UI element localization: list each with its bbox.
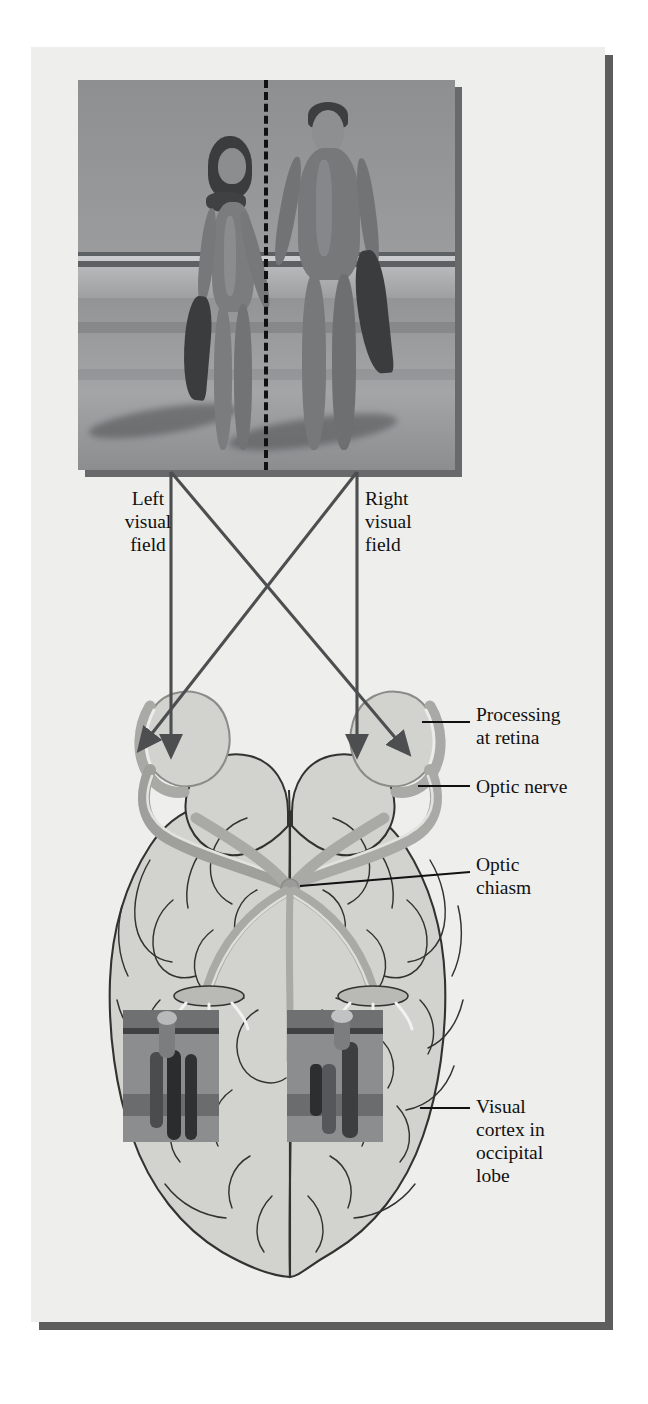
stimulus-photograph [78,80,455,470]
woman-left-leg [214,304,232,450]
label-left-visual-field: Left visual field [108,487,188,556]
man-left-leg [302,274,326,450]
label-optic-chiasm: Optic chiasm [476,853,531,899]
man-right-leg [332,274,356,450]
label-optic-nerve: Optic nerve [476,775,568,798]
label-processing-at-retina: Processing at retina [476,703,561,749]
woman-head [218,148,246,184]
man-chest-highlight [316,160,332,256]
woman-torso-highlight [224,216,236,296]
figure-man [278,102,386,454]
visual-field-midline [264,80,268,470]
label-right-visual-field: Right visual field [365,487,475,556]
woman-right-leg [234,304,252,450]
label-visual-cortex: Visual cortex in occipital lobe [476,1095,545,1187]
man-head [312,110,344,152]
